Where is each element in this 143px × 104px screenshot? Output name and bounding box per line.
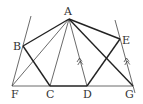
line-through-e-g: [115, 20, 135, 93]
segment-bc: [23, 46, 50, 86]
segment-de: [87, 39, 120, 86]
label-f: F: [11, 88, 19, 101]
label-d: D: [83, 88, 92, 101]
label-g: G: [125, 88, 134, 101]
label-e: E: [122, 34, 130, 47]
segment-ae: [69, 19, 120, 39]
parallel-mark-ad-icon: [77, 58, 83, 65]
geometry-figure: A B E F C D G: [0, 0, 143, 104]
label-a: A: [63, 5, 73, 18]
label-b: B: [13, 40, 21, 53]
label-c: C: [46, 88, 54, 101]
segment-ag: [69, 19, 133, 86]
